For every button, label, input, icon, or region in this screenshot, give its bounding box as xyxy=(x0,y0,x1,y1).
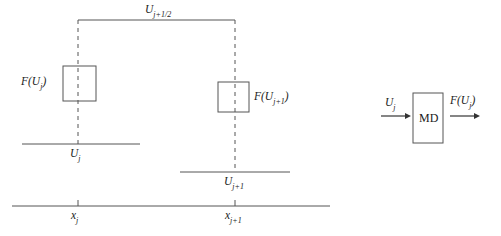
md-input-label: Uj xyxy=(385,97,396,111)
md-output-arrow-head xyxy=(474,113,480,119)
flux-square-left xyxy=(63,66,96,101)
md-block-label: MD xyxy=(419,112,438,124)
top-connector-label: Uj+1/2 xyxy=(145,4,171,18)
x-tick-left-label: xj xyxy=(71,210,78,224)
cell-left-label: Uj xyxy=(70,148,81,162)
flux-square-right xyxy=(218,82,249,112)
cell-right-label: Uj+1 xyxy=(224,176,244,190)
flux-right-label: F(Uj+1) xyxy=(254,91,289,105)
md-output-label: F(Uj) xyxy=(450,95,475,109)
md-input-arrow-head xyxy=(405,113,411,119)
flux-left-label: F(Uj) xyxy=(21,76,46,90)
x-tick-right-label: xj+1 xyxy=(225,210,242,224)
figure-canvas: Uj+1/2 F(Uj) F(Uj+1) Uj Uj+1 xj xj+1 MD … xyxy=(0,0,501,236)
